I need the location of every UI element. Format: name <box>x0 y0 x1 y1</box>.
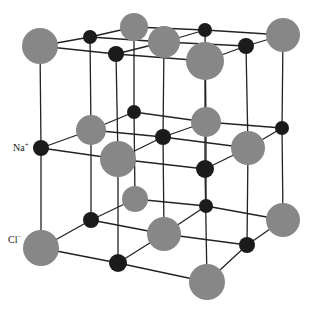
sodium-ion <box>33 140 49 156</box>
chloride-ion <box>186 42 224 80</box>
chloride-ion <box>147 217 181 251</box>
chloride-ion <box>22 28 58 64</box>
sodium-ion <box>83 30 97 44</box>
chloride-ion <box>266 203 300 237</box>
chloride-ion <box>148 26 180 58</box>
chloride-ion <box>120 13 148 41</box>
sodium-ion <box>108 46 124 62</box>
sodium-ion <box>109 254 127 272</box>
cl-label-charge: − <box>17 233 21 241</box>
chloride-ion <box>76 115 106 145</box>
na-label-charge: + <box>25 141 29 149</box>
chloride-ion <box>23 230 59 266</box>
nacl-lattice-diagram <box>0 0 314 315</box>
atoms <box>22 13 300 300</box>
chloride-ion <box>122 186 148 212</box>
sodium-ion <box>199 199 213 213</box>
na-label-text: Na <box>13 142 25 153</box>
chloride-ion <box>266 18 300 52</box>
sodium-ion <box>239 237 255 253</box>
chloride-ion <box>231 131 265 165</box>
sodium-ion <box>155 129 171 145</box>
cl-ion-label: Cl− <box>8 233 21 245</box>
na-ion-label: Na+ <box>13 141 29 153</box>
sodium-ion <box>275 121 289 135</box>
sodium-ion <box>196 160 214 178</box>
sodium-ion <box>238 38 254 54</box>
chloride-ion <box>189 264 225 300</box>
chloride-ion <box>191 107 221 137</box>
sodium-ion <box>127 105 141 119</box>
chloride-ion <box>100 141 136 177</box>
sodium-ion <box>198 23 212 37</box>
sodium-ion <box>83 212 99 228</box>
